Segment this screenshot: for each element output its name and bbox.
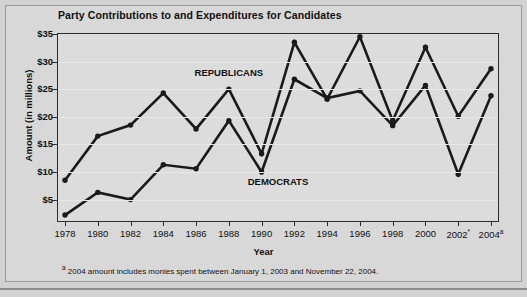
y-tick-label: $10 xyxy=(16,166,53,177)
y-tick-mark xyxy=(52,172,57,173)
x-tick-label: 1998 xyxy=(382,228,403,239)
x-tick-label: 1986 xyxy=(185,228,206,239)
x-tick-label: 1990 xyxy=(251,228,272,239)
gridline xyxy=(58,172,498,173)
data-point xyxy=(161,90,166,95)
x-tick-mark xyxy=(327,221,328,226)
x-tick-mark xyxy=(262,221,263,226)
data-point xyxy=(226,118,231,123)
y-tick-label: $5 xyxy=(16,194,53,205)
y-tick-mark xyxy=(52,34,57,35)
gridline xyxy=(58,117,498,118)
x-axis-line xyxy=(57,221,499,222)
data-point xyxy=(128,122,133,127)
y-tick-label: $25 xyxy=(16,83,53,94)
y-axis-tick-labels: $5$10$15$20$25$30$35 xyxy=(8,33,53,222)
x-tick-mark xyxy=(65,221,66,226)
gridline xyxy=(58,200,498,201)
y-tick-label: $35 xyxy=(16,28,53,39)
chart-page: Party Contributions to and Expenditures … xyxy=(0,0,527,297)
data-point xyxy=(292,77,297,82)
plot-border-right xyxy=(498,33,499,222)
data-point xyxy=(161,162,166,167)
data-point xyxy=(488,93,493,98)
chart-title: Party Contributions to and Expenditures … xyxy=(58,9,342,21)
y-axis-line xyxy=(57,33,58,222)
data-point xyxy=(423,45,428,50)
data-point xyxy=(95,190,100,195)
x-tick-mark xyxy=(360,221,361,226)
x-tick-mark xyxy=(98,221,99,226)
data-point xyxy=(62,212,67,217)
y-tick-mark xyxy=(52,117,57,118)
x-tick-mark xyxy=(163,221,164,226)
x-tick-mark xyxy=(458,221,459,226)
x-tick-mark xyxy=(196,221,197,226)
x-tick-label: 2000 xyxy=(415,228,436,239)
data-point xyxy=(292,40,297,45)
data-point xyxy=(259,151,264,156)
plot-area: REPUBLICANSDEMOCRATS xyxy=(57,33,499,222)
x-tick-label: 1980 xyxy=(87,228,108,239)
x-tick-label: 2002* xyxy=(446,228,470,240)
x-tick-mark xyxy=(425,221,426,226)
data-point xyxy=(95,133,100,138)
plot-border-top xyxy=(57,33,499,34)
x-tick-label: 1984 xyxy=(153,228,174,239)
data-point xyxy=(193,126,198,131)
x-tick-superscript: * xyxy=(468,228,471,235)
data-point xyxy=(390,123,395,128)
x-tick-label: 1996 xyxy=(349,228,370,239)
x-tick-label: 1982 xyxy=(120,228,141,239)
x-tick-mark xyxy=(131,221,132,226)
data-point xyxy=(324,95,329,100)
x-axis-title: Year xyxy=(0,246,527,257)
series-line xyxy=(65,37,491,181)
data-point xyxy=(488,66,493,71)
y-tick-mark xyxy=(52,200,57,201)
y-tick-label: $20 xyxy=(16,111,53,122)
series-label-democrats: DEMOCRATS xyxy=(248,176,309,187)
x-tick-label: 1988 xyxy=(218,228,239,239)
x-tick-label: 1992 xyxy=(284,228,305,239)
bottom-divider xyxy=(0,288,527,290)
y-tick-mark xyxy=(52,144,57,145)
chart-footnote: a 2004 amount includes monies spent betw… xyxy=(62,264,378,276)
data-point xyxy=(357,34,362,39)
y-tick-mark xyxy=(52,89,57,90)
series-label-republicans: REPUBLICANS xyxy=(195,67,264,78)
x-tick-label: 1978 xyxy=(54,228,75,239)
data-point xyxy=(423,83,428,88)
x-axis-tick-labels: 1978198019821984198619881990199219941996… xyxy=(57,228,499,242)
data-point xyxy=(62,178,67,183)
x-tick-label: 1994 xyxy=(317,228,338,239)
y-tick-label: $15 xyxy=(16,138,53,149)
data-point xyxy=(193,166,198,171)
gridline xyxy=(58,144,498,145)
x-tick-mark xyxy=(294,221,295,226)
x-tick-mark xyxy=(393,221,394,226)
y-tick-mark xyxy=(52,62,57,63)
x-tick-mark xyxy=(229,221,230,226)
gridline xyxy=(58,89,498,90)
x-tick-superscript: a xyxy=(500,228,504,235)
y-tick-label: $30 xyxy=(16,56,53,67)
gridline xyxy=(58,62,498,63)
x-tick-label: 2004a xyxy=(479,228,504,240)
x-tick-mark xyxy=(491,221,492,226)
footnote-text: 2004 amount includes monies spent betwee… xyxy=(66,267,379,276)
